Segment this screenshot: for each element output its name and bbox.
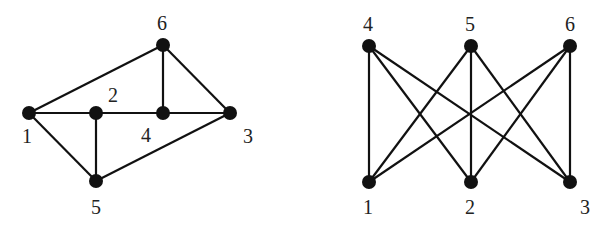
edge-1-5 [29,113,96,181]
node-1 [22,106,36,120]
node-3 [563,175,577,189]
node-4 [362,39,376,53]
node-label-5: 5 [91,196,101,218]
graph-diagram: 123456 456123 [0,0,614,229]
node-3 [223,106,237,120]
node-label-3: 3 [580,196,590,218]
node-label-1: 1 [22,125,32,147]
node-label-5: 5 [465,13,475,35]
node-1 [362,175,376,189]
node-2 [89,106,103,120]
node-4 [156,106,170,120]
node-label-3: 3 [243,125,253,147]
right-graph: 456123 [362,13,590,218]
node-2 [464,175,478,189]
node-6 [156,38,170,52]
node-label-1: 1 [363,196,373,218]
node-6 [563,39,577,53]
edge-1-6 [29,45,163,113]
node-label-6: 6 [157,12,167,34]
node-label-4: 4 [363,13,373,35]
node-label-2: 2 [108,84,118,106]
node-5 [89,174,103,188]
node-label-6: 6 [565,13,575,35]
node-label-4: 4 [141,124,151,146]
node-5 [464,39,478,53]
left-graph: 123456 [22,12,253,218]
edge-5-3 [96,113,230,181]
edge-6-3 [163,45,230,113]
node-label-2: 2 [465,196,475,218]
